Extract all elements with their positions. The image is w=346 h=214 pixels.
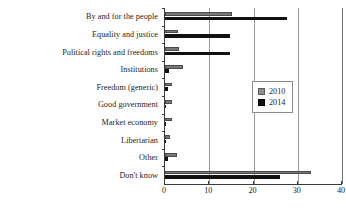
axis-tick-label: 30 [293, 186, 301, 195]
axis-tick-mark [164, 181, 165, 184]
category-label: Political rights and freedoms [0, 48, 158, 57]
axis-tick-mark [253, 181, 254, 184]
category-label: Don't know [0, 171, 158, 180]
legend-item[interactable]: 2010 [258, 86, 285, 97]
bar-2014 [165, 87, 168, 91]
bar-2010 [165, 65, 183, 69]
bar-group [165, 61, 342, 79]
category-label: Freedom (generic) [0, 83, 158, 92]
bar-2014 [165, 69, 169, 73]
category-label: Equality and justice [0, 30, 158, 39]
bar-group [165, 131, 342, 149]
category-label: Market economy [0, 118, 158, 127]
bar-2010 [165, 47, 179, 51]
bar-2010 [165, 12, 232, 16]
horizontal-bar-chart: By and for the peopleEquality and justic… [0, 0, 346, 214]
axis-tick-label: 10 [204, 186, 212, 195]
black-square-swatch [258, 99, 265, 106]
bar-2014 [165, 140, 166, 144]
bar-group [165, 114, 342, 132]
chart-legend: 20102014 [252, 81, 293, 113]
bar-2014 [165, 122, 166, 126]
bar-2010 [165, 83, 172, 87]
bar-group [165, 8, 342, 26]
axis-tick-mark [297, 181, 298, 184]
legend-label: 2014 [269, 98, 285, 107]
bar-group [165, 43, 342, 61]
category-label: Institutions [0, 65, 158, 74]
category-label: Good government [0, 100, 158, 109]
bar-2010 [165, 118, 172, 122]
legend-item[interactable]: 2014 [258, 97, 285, 108]
bar-group [165, 26, 342, 44]
bar-2010 [165, 30, 178, 34]
value-axis: 010203040 [164, 184, 344, 204]
legend-label: 2010 [269, 87, 285, 96]
bar-2014 [165, 52, 230, 56]
axis-tick-mark [208, 181, 209, 184]
category-label: Libertarian [0, 136, 158, 145]
bar-2010 [165, 153, 177, 157]
bar-group [165, 149, 342, 167]
bar-2014 [165, 34, 230, 38]
bar-2014 [165, 105, 166, 109]
bar-2010 [165, 135, 170, 139]
bar-2014 [165, 175, 280, 179]
bar-2010 [165, 100, 172, 104]
bar-2010 [165, 171, 311, 175]
axis-tick-label: 40 [337, 186, 345, 195]
gridline [342, 8, 343, 184]
category-label: By and for the people [0, 12, 158, 21]
gray-square-swatch [258, 88, 265, 95]
bar-2014 [165, 17, 287, 21]
axis-tick-mark [341, 181, 342, 184]
category-label: Other [0, 153, 158, 162]
category-axis: By and for the peopleEquality and justic… [0, 8, 161, 184]
bar-2014 [165, 157, 168, 161]
bar-group [165, 166, 342, 184]
axis-tick-label: 0 [162, 186, 166, 195]
axis-tick-label: 20 [248, 186, 256, 195]
